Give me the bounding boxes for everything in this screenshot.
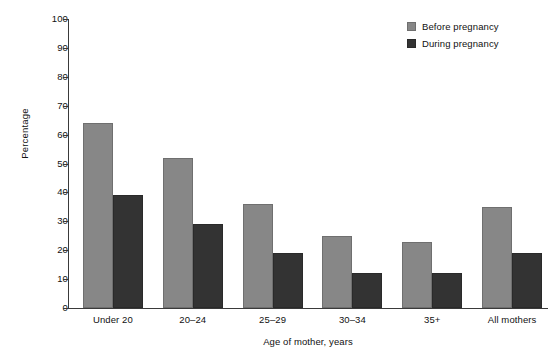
bar-group bbox=[322, 19, 382, 308]
bar-group bbox=[482, 19, 542, 308]
bar[interactable] bbox=[482, 207, 512, 308]
bar[interactable] bbox=[322, 236, 352, 308]
bar[interactable] bbox=[113, 195, 143, 308]
bar[interactable] bbox=[512, 253, 542, 308]
y-axis-tick-mark bbox=[63, 106, 68, 107]
bar[interactable] bbox=[432, 273, 462, 308]
legend-label-before-pregnancy: Before pregnancy bbox=[422, 21, 499, 32]
x-axis-tick-label: All mothers bbox=[452, 314, 559, 325]
bar[interactable] bbox=[193, 224, 223, 308]
y-axis-title: Percentage bbox=[19, 74, 30, 194]
plot-area bbox=[69, 19, 548, 308]
y-axis-tick-mark bbox=[63, 250, 68, 251]
bar-chart: Percentage 0102030405060708090100 Under … bbox=[0, 0, 559, 358]
y-axis-tick-mark bbox=[63, 192, 68, 193]
bar[interactable] bbox=[273, 253, 303, 308]
legend-item-during-pregnancy[interactable]: During pregnancy bbox=[407, 35, 499, 52]
y-axis-tick-mark bbox=[63, 135, 68, 136]
bar[interactable] bbox=[243, 204, 273, 308]
bar[interactable] bbox=[83, 123, 113, 308]
legend-item-before-pregnancy[interactable]: Before pregnancy bbox=[407, 18, 499, 35]
x-axis-line bbox=[68, 308, 548, 309]
legend-swatch-during-pregnancy bbox=[407, 39, 416, 48]
y-axis-tick-mark bbox=[63, 77, 68, 78]
bar[interactable] bbox=[163, 158, 193, 308]
y-axis-tick-mark bbox=[63, 19, 68, 20]
bar-group bbox=[402, 19, 462, 308]
bar[interactable] bbox=[402, 242, 432, 308]
y-axis-tick-mark bbox=[63, 221, 68, 222]
y-axis-tick-mark bbox=[63, 279, 68, 280]
bar-group bbox=[163, 19, 223, 308]
y-axis-tick-mark bbox=[63, 164, 68, 165]
y-axis-tick-mark bbox=[63, 308, 68, 309]
bar[interactable] bbox=[352, 273, 382, 308]
legend-label-during-pregnancy: During pregnancy bbox=[422, 38, 499, 49]
y-axis-tick-mark bbox=[63, 48, 68, 49]
legend-swatch-before-pregnancy bbox=[407, 22, 416, 31]
x-axis-title: Age of mother, years bbox=[68, 336, 548, 347]
bar-group bbox=[243, 19, 303, 308]
chart-legend: Before pregnancy During pregnancy bbox=[407, 18, 499, 52]
bar-group bbox=[83, 19, 143, 308]
